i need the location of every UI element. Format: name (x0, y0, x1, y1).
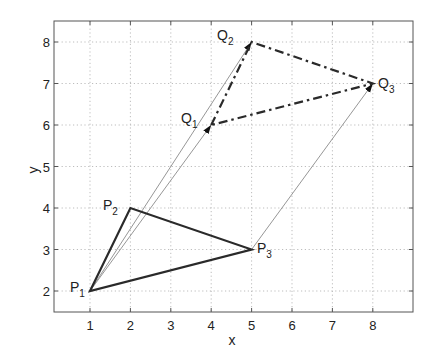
y-tick-labels: 2 3 4 5 6 7 8 (43, 35, 50, 299)
y-tick-label: 5 (43, 160, 50, 175)
x-tick-label: 2 (127, 318, 134, 333)
y-axis-label: y (25, 167, 41, 174)
x-tick-label: 5 (248, 318, 255, 333)
y-tick-label: 4 (43, 201, 50, 216)
y-tick-label: 8 (43, 35, 50, 50)
x-tick-label: 8 (369, 318, 376, 333)
x-axis-label: x (229, 332, 236, 348)
y-tick-label: 2 (43, 284, 50, 299)
x-tick-label: 6 (288, 318, 295, 333)
x-tick-labels: 1 2 3 4 5 6 7 8 (86, 318, 376, 333)
x-tick-label: 4 (208, 318, 215, 333)
x-tick-label: 3 (167, 318, 174, 333)
y-tick-label: 7 (43, 77, 50, 92)
x-tick-label: 7 (329, 318, 336, 333)
y-tick-label: 6 (43, 118, 50, 133)
x-tick-label: 1 (86, 318, 93, 333)
y-tick-label: 3 (43, 243, 50, 258)
chart: 1 2 3 4 5 6 7 8 2 3 4 5 6 7 8 x y P1 P2 (0, 0, 439, 355)
